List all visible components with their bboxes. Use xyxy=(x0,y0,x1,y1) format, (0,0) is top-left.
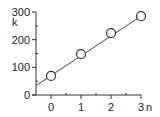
y-tick-label: 0 xyxy=(24,89,30,101)
data-point-marker xyxy=(77,50,86,59)
line-chart: 01002003000123kn xyxy=(0,0,160,117)
x-tick-label: 1 xyxy=(78,101,84,113)
data-point-marker xyxy=(137,12,146,21)
x-tick-label: 0 xyxy=(48,101,54,113)
x-tick-label: 2 xyxy=(108,101,114,113)
y-tick-label: 200 xyxy=(12,34,30,46)
y-axis-label: k xyxy=(12,16,18,28)
data-point-marker xyxy=(47,71,56,80)
x-tick-label: 3 xyxy=(138,101,144,113)
x-axis-label: n xyxy=(146,101,152,113)
y-tick-label: 100 xyxy=(12,61,30,73)
data-point-marker xyxy=(107,29,116,38)
axes xyxy=(32,12,141,99)
tick-labels: 01002003000123kn xyxy=(12,6,152,113)
